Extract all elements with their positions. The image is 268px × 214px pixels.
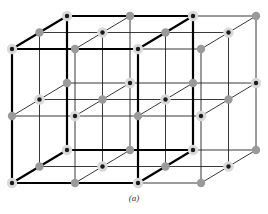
ion-a-node [188, 11, 198, 21]
ion-b-node [252, 12, 260, 20]
ion-a-node [223, 27, 233, 37]
ion-b-node [71, 179, 79, 187]
ion-b-node [71, 45, 79, 53]
ion-a-node [62, 145, 72, 155]
ion-a-node [34, 94, 44, 104]
ion-b-node [98, 95, 106, 103]
crystal-lattice-diagram [0, 0, 268, 214]
ion-b-node [35, 28, 43, 36]
ion-a-node [188, 145, 198, 155]
figure-caption: (a) [0, 193, 268, 203]
ion-a-node [251, 78, 261, 88]
ion-b-node [126, 146, 134, 154]
ion-a-node [223, 161, 233, 171]
ion-a-node [7, 178, 17, 188]
ion-b-node [161, 162, 169, 170]
ion-b-node [197, 179, 205, 187]
ion-a-node [97, 161, 107, 171]
ion-b-node [197, 45, 205, 53]
ion-b-node [161, 28, 169, 36]
ion-b-node [134, 112, 142, 120]
ion-b-node [126, 12, 134, 20]
ion-a-node [7, 44, 17, 54]
ion-b-node [8, 112, 16, 120]
ion-a-node [97, 27, 107, 37]
ion-a-node [196, 111, 206, 121]
lattice-lines [12, 16, 256, 183]
ion-a-node [62, 11, 72, 21]
ion-a-node [160, 94, 170, 104]
ion-a-node [125, 78, 135, 88]
ion-a-node [133, 44, 143, 54]
ion-a-node [133, 178, 143, 188]
ion-b-node [189, 79, 197, 87]
ion-b-node [224, 95, 232, 103]
ion-a-node [70, 111, 80, 121]
ion-b-node [35, 162, 43, 170]
ion-b-node [63, 79, 71, 87]
ion-b-node [252, 146, 260, 154]
